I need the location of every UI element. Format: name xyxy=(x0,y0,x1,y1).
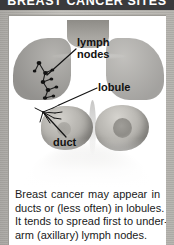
duct-lobule-structure xyxy=(35,105,62,123)
card-header: BREAST CANCER SITES xyxy=(0,0,174,10)
header-title: BREAST CANCER SITES xyxy=(0,0,174,8)
breast-cancer-sites-card: BREAST CANCER SITES xyxy=(0,0,174,245)
lymph-node-chain-icon xyxy=(35,63,56,98)
label-lobule: lobule xyxy=(98,82,130,94)
caption-line: ducts or (less often) in lobules. xyxy=(15,202,160,216)
label-lymph-nodes: lymph nodes xyxy=(77,37,109,60)
content-panel: lymph nodes lobule duct Breast cancer ma… xyxy=(8,15,166,245)
leader-line-lymph-nodes xyxy=(47,49,76,75)
caption-word: appear xyxy=(113,188,147,202)
leader-line-lobule xyxy=(59,88,97,105)
caption-word: may xyxy=(88,188,109,202)
caption-line: Breast cancer may appear in xyxy=(15,188,160,202)
leader-lines xyxy=(43,49,97,137)
label-lymph-nodes-line1: lymph xyxy=(77,36,109,48)
caption-word: in xyxy=(151,188,160,202)
caption-word: Breast xyxy=(15,188,47,202)
label-lymph-nodes-line2: nodes xyxy=(77,48,109,60)
caption-line: arm (axillary) lymph nodes. xyxy=(15,229,160,243)
label-duct: duct xyxy=(53,137,76,149)
leader-line-duct xyxy=(43,112,66,137)
caption-block: Breast cancer may appear in ducts or (le… xyxy=(9,188,166,245)
anatomy-illustration: lymph nodes lobule duct xyxy=(9,16,166,188)
caption-word: cancer xyxy=(51,188,84,202)
caption-line: It tends to spread first to under- xyxy=(15,215,160,229)
